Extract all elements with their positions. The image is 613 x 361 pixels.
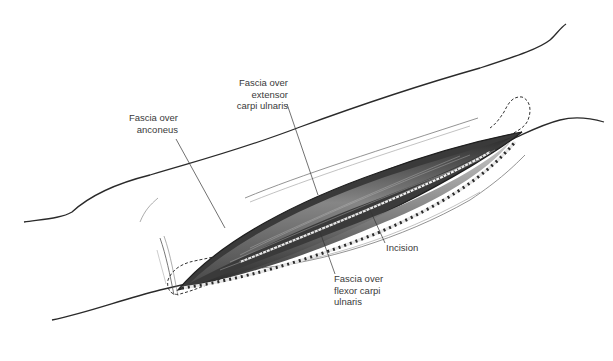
forearm-illustration: [0, 0, 613, 361]
label-fascia-fcu: Fascia over flexor carpi ulnaris: [334, 273, 383, 308]
label-fascia-ecu: Fascia over extensor carpi ulnaris: [218, 77, 288, 112]
elbow-crease-3: [157, 250, 166, 284]
label-fcu-line-1: Fascia over: [334, 273, 383, 285]
label-incision-line-1: Incision: [386, 242, 418, 254]
arm-upper-outline: [24, 24, 566, 222]
label-ecu-line-2: extensor: [218, 89, 288, 101]
label-anconeus-line-2: anconeus: [112, 124, 178, 136]
label-ecu-line-1: Fascia over: [218, 77, 288, 89]
label-ecu-line-3: carpi ulnaris: [218, 100, 288, 112]
label-incision: Incision: [386, 242, 418, 254]
dashed-outline-right: [490, 97, 530, 138]
leader-anconeus: [176, 139, 225, 228]
skin-fold-left: [140, 198, 158, 222]
label-fcu-line-3: ulnaris: [334, 296, 383, 308]
illustration-svg: [0, 0, 613, 361]
leader-ecu: [287, 104, 318, 195]
label-fcu-line-2: flexor carpi: [334, 285, 383, 297]
label-anconeus-line-1: Fascia over: [112, 112, 178, 124]
label-fascia-anconeus: Fascia over anconeus: [112, 112, 178, 135]
